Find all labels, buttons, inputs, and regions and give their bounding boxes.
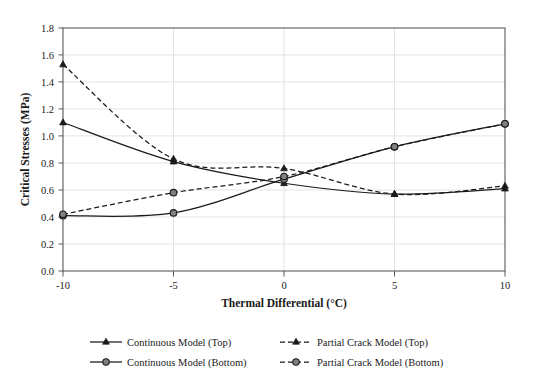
x-tick-label: 10 bbox=[500, 280, 511, 291]
circle-marker-icon bbox=[281, 173, 288, 180]
y-tick-label: 1.6 bbox=[41, 50, 54, 61]
legend-label: Continuous Model (Bottom) bbox=[127, 357, 247, 369]
circle-marker-icon bbox=[103, 359, 109, 365]
y-tick-label: 1.2 bbox=[41, 104, 54, 115]
chart-figure: 0.0 0.2 0.4 0.6 0.8 1.0 1.2 1.4 1.6 1.8 … bbox=[0, 0, 538, 384]
y-tick-label: 0.6 bbox=[41, 185, 54, 196]
x-tick-label: -10 bbox=[56, 280, 70, 291]
y-tick-label: 1.4 bbox=[41, 77, 55, 88]
x-tick-label: -5 bbox=[169, 280, 178, 291]
y-axis-title: Critical Stresses (MPa) bbox=[19, 93, 32, 207]
y-tick-label: 0.0 bbox=[41, 266, 54, 277]
y-tick-label: 0.4 bbox=[41, 212, 55, 223]
circle-marker-icon bbox=[293, 359, 299, 365]
circle-marker-icon bbox=[170, 210, 177, 217]
circle-marker-icon bbox=[502, 121, 509, 128]
circle-marker-icon bbox=[60, 211, 67, 218]
x-tick-label: 0 bbox=[281, 280, 286, 291]
y-tick-label: 1.8 bbox=[41, 23, 54, 34]
circle-marker-icon bbox=[391, 144, 398, 151]
x-tick-label: 5 bbox=[392, 280, 397, 291]
y-tick-label: 0.8 bbox=[41, 158, 54, 169]
legend-label: Continuous Model (Top) bbox=[127, 337, 232, 349]
y-tick-label: 1.0 bbox=[41, 131, 54, 142]
x-axis-title: Thermal Differential (°C) bbox=[221, 297, 347, 310]
legend-label: Partial Crack Model (Top) bbox=[317, 337, 428, 349]
circle-marker-icon bbox=[170, 189, 177, 196]
y-tick-label: 0.2 bbox=[41, 239, 54, 250]
legend-label: Partial Crack Model (Bottom) bbox=[317, 357, 444, 369]
